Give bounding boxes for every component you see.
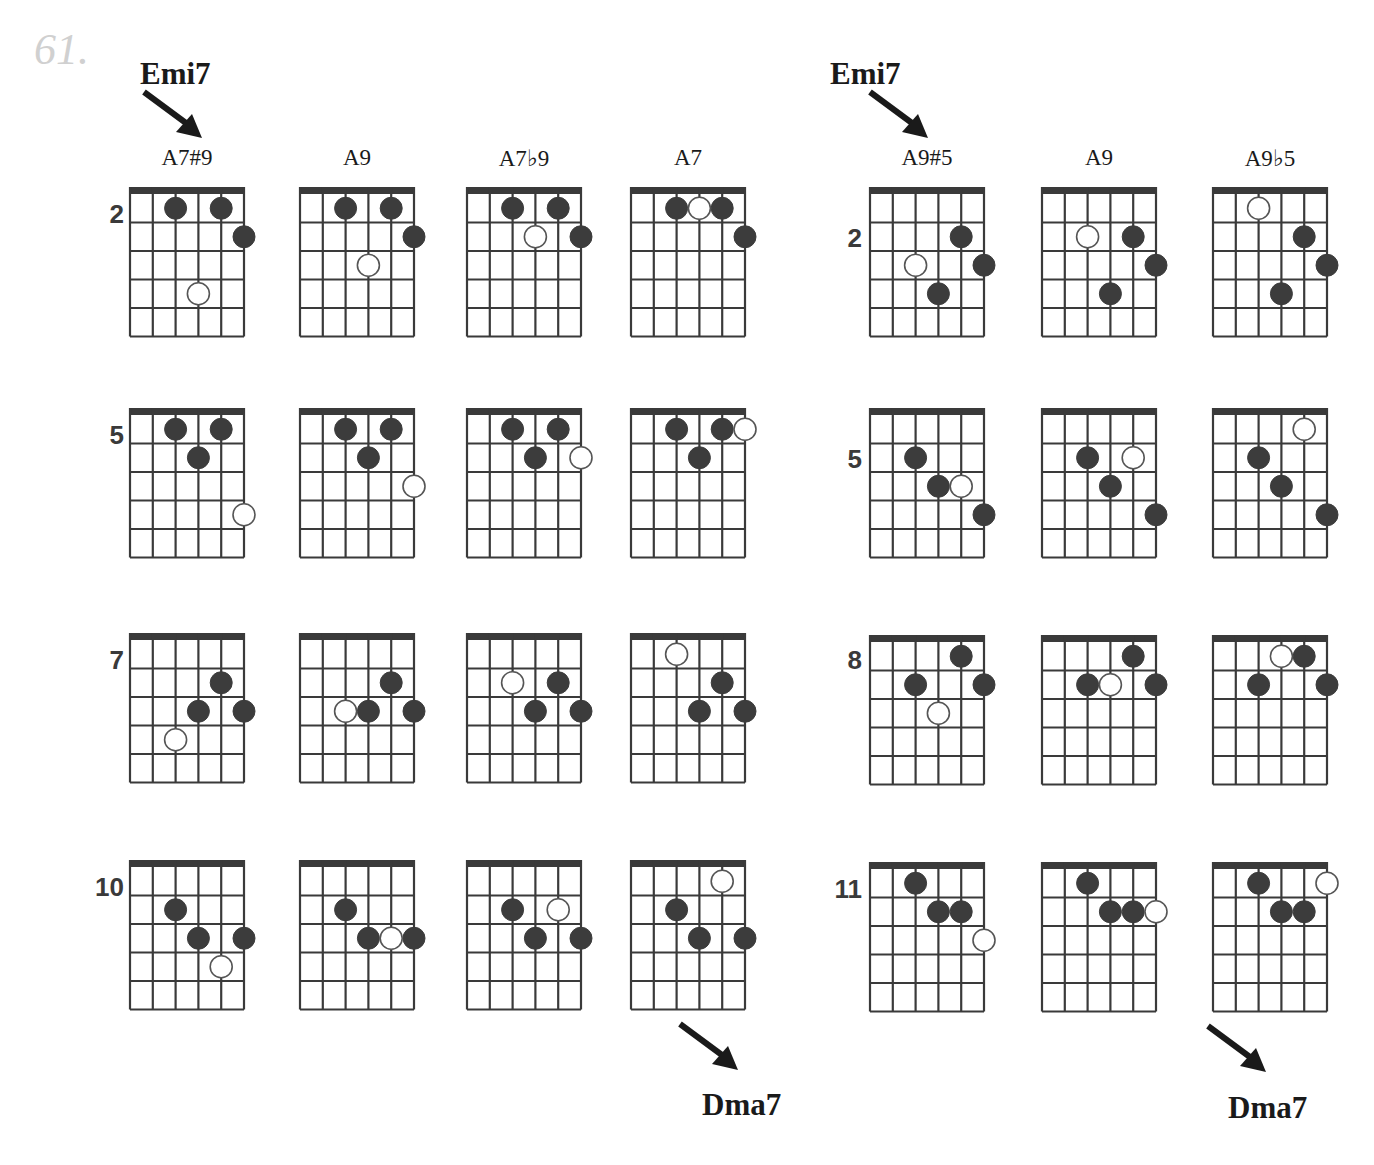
nut-bar bbox=[130, 408, 244, 415]
finger-dot-filled bbox=[502, 418, 524, 440]
finger-dot-filled bbox=[973, 254, 995, 276]
chord-diagram bbox=[120, 858, 254, 1018]
finger-dot-open bbox=[524, 226, 546, 248]
finger-dot-filled bbox=[1248, 872, 1270, 894]
finger-dot-filled bbox=[1248, 447, 1270, 469]
finger-dot-filled bbox=[973, 674, 995, 696]
finger-dot-filled bbox=[570, 927, 592, 949]
nut-bar bbox=[467, 187, 581, 194]
finger-dot-open bbox=[1099, 674, 1121, 696]
fret-position-number: 7 bbox=[84, 645, 124, 676]
chord-diagram bbox=[457, 406, 591, 566]
nut-bar bbox=[300, 860, 414, 867]
finger-dot-filled bbox=[233, 226, 255, 248]
finger-dot-filled bbox=[1293, 901, 1315, 923]
nut-bar bbox=[1213, 635, 1327, 642]
finger-dot-filled bbox=[187, 447, 209, 469]
nut-bar bbox=[130, 633, 244, 640]
chord-name: A9 bbox=[287, 145, 427, 171]
finger-dot-filled bbox=[666, 899, 688, 921]
chord-name: A9 bbox=[1029, 145, 1169, 171]
finger-dot-filled bbox=[1248, 674, 1270, 696]
chord-diagram bbox=[1032, 860, 1166, 1020]
finger-dot-filled bbox=[210, 418, 232, 440]
finger-dot-open bbox=[165, 729, 187, 751]
arrow-down-right-icon bbox=[140, 88, 220, 148]
finger-dot-filled bbox=[357, 447, 379, 469]
finger-dot-open bbox=[973, 929, 995, 951]
chord-diagram bbox=[860, 406, 994, 566]
chord-diagram bbox=[120, 185, 254, 345]
finger-dot-filled bbox=[187, 927, 209, 949]
finger-dot-filled bbox=[1145, 254, 1167, 276]
finger-dot-filled bbox=[570, 226, 592, 248]
fret-position-number: 10 bbox=[84, 872, 124, 903]
chord-diagram bbox=[860, 633, 994, 793]
finger-dot-open bbox=[233, 504, 255, 526]
chord-name: A9#5 bbox=[857, 145, 997, 171]
chord-diagram bbox=[1203, 860, 1337, 1020]
fret-position-number: 2 bbox=[84, 199, 124, 230]
finger-dot-filled bbox=[210, 197, 232, 219]
chord-name: A7#9 bbox=[117, 145, 257, 171]
finger-dot-filled bbox=[547, 197, 569, 219]
finger-dot-filled bbox=[1122, 645, 1144, 667]
finger-dot-open bbox=[570, 447, 592, 469]
chord-diagram bbox=[457, 858, 591, 1018]
chord-name: A7 bbox=[618, 145, 758, 171]
finger-dot-open bbox=[210, 956, 232, 978]
nut-bar bbox=[467, 860, 581, 867]
finger-dot-filled bbox=[711, 418, 733, 440]
chord-diagram bbox=[621, 858, 755, 1018]
nut-bar bbox=[1213, 408, 1327, 415]
finger-dot-open bbox=[1145, 901, 1167, 923]
finger-dot-filled bbox=[547, 672, 569, 694]
finger-dot-filled bbox=[187, 700, 209, 722]
finger-dot-filled bbox=[1122, 226, 1144, 248]
fret-position-number: 11 bbox=[822, 874, 862, 905]
finger-dot-open bbox=[1316, 872, 1338, 894]
nut-bar bbox=[631, 633, 745, 640]
finger-dot-filled bbox=[1077, 674, 1099, 696]
fret-position-number: 5 bbox=[822, 444, 862, 475]
finger-dot-filled bbox=[927, 283, 949, 305]
finger-dot-filled bbox=[711, 197, 733, 219]
finger-dot-filled bbox=[335, 418, 357, 440]
finger-dot-filled bbox=[403, 927, 425, 949]
nut-bar bbox=[1213, 862, 1327, 869]
finger-dot-filled bbox=[666, 197, 688, 219]
finger-dot-open bbox=[666, 643, 688, 665]
finger-dot-filled bbox=[927, 901, 949, 923]
finger-dot-open bbox=[380, 927, 402, 949]
finger-dot-filled bbox=[1099, 283, 1121, 305]
finger-dot-filled bbox=[1316, 674, 1338, 696]
finger-dot-filled bbox=[547, 418, 569, 440]
chord-diagram bbox=[120, 406, 254, 566]
nut-bar bbox=[1042, 635, 1156, 642]
finger-dot-filled bbox=[1316, 254, 1338, 276]
finger-dot-filled bbox=[950, 901, 972, 923]
chord-diagram bbox=[290, 185, 424, 345]
nut-bar bbox=[467, 408, 581, 415]
finger-dot-filled bbox=[502, 899, 524, 921]
finger-dot-filled bbox=[524, 447, 546, 469]
finger-dot-open bbox=[1293, 418, 1315, 440]
finger-dot-filled bbox=[380, 197, 402, 219]
finger-dot-filled bbox=[1270, 901, 1292, 923]
finger-dot-filled bbox=[1270, 283, 1292, 305]
finger-dot-filled bbox=[666, 418, 688, 440]
finger-dot-filled bbox=[1293, 645, 1315, 667]
finger-dot-open bbox=[1270, 645, 1292, 667]
exercise-number: 61. bbox=[34, 24, 89, 75]
finger-dot-filled bbox=[380, 418, 402, 440]
finger-dot-filled bbox=[210, 672, 232, 694]
end-chord-label-left: Dma7 bbox=[702, 1087, 781, 1123]
nut-bar bbox=[1042, 187, 1156, 194]
chord-diagram bbox=[1203, 406, 1337, 566]
chord-diagram bbox=[457, 185, 591, 345]
finger-dot-filled bbox=[165, 899, 187, 921]
nut-bar bbox=[130, 860, 244, 867]
finger-dot-filled bbox=[905, 872, 927, 894]
finger-dot-filled bbox=[950, 226, 972, 248]
finger-dot-filled bbox=[688, 700, 710, 722]
